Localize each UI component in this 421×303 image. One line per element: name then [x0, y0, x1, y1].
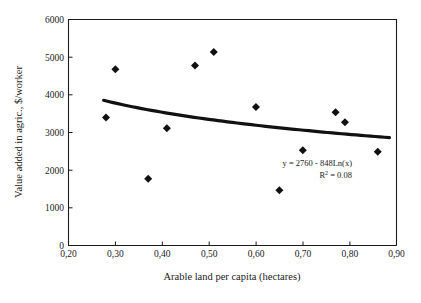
data-point [163, 124, 171, 132]
y-axis-title: Value added in agric., $/worker [13, 66, 24, 198]
data-point [299, 146, 307, 154]
data-point [252, 103, 260, 111]
data-point [111, 65, 119, 73]
data-point [102, 113, 110, 121]
y-axis-ticks [69, 20, 73, 246]
y-tick-label: 2000 [45, 166, 64, 176]
y-tick-labels: 0 1000 2000 3000 4000 5000 6000 [45, 15, 64, 251]
data-point [341, 118, 349, 126]
data-point [210, 48, 218, 56]
trendline [104, 100, 390, 137]
data-point [191, 61, 199, 69]
x-tick-label: 0,80 [342, 249, 359, 259]
data-point [275, 186, 283, 194]
x-tick-label: 0,30 [107, 249, 124, 259]
chart-figure: 0 1000 2000 3000 4000 5000 6000 0,20 0,3… [0, 0, 421, 303]
x-axis-title: Arable land per capita (hectares) [163, 271, 301, 283]
x-tick-label: 0,70 [295, 249, 312, 259]
x-axis-ticks [69, 242, 397, 246]
x-tick-label: 0,60 [248, 249, 265, 259]
y-tick-label: 1000 [45, 203, 64, 213]
y-tick-label: 6000 [45, 15, 64, 25]
scatter-plot: 0 1000 2000 3000 4000 5000 6000 0,20 0,3… [0, 0, 421, 303]
y-tick-label: 5000 [45, 53, 64, 63]
x-tick-label: 0,20 [60, 249, 77, 259]
x-tick-labels: 0,20 0,30 0,40 0,50 0,60 0,70 0,80 0,90 [60, 249, 405, 259]
y-tick-label: 4000 [45, 90, 64, 100]
trendline-r2-label: R2 = 0.08 [319, 170, 352, 180]
r2-value: = 0.08 [328, 170, 352, 180]
data-point [374, 148, 382, 156]
x-tick-label: 0,50 [201, 249, 218, 259]
plot-frame [68, 19, 397, 246]
x-tick-label: 0,90 [388, 249, 405, 259]
data-point [332, 108, 340, 116]
x-tick-label: 0,40 [154, 249, 171, 259]
data-point [144, 175, 152, 183]
y-tick-label: 3000 [45, 128, 64, 138]
trendline-equation-label: y = 2760 - 848Ln(x) [283, 158, 353, 168]
